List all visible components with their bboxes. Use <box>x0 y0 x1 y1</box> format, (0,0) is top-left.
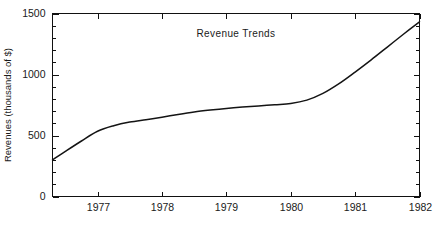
y-tick-label: 1000 <box>22 68 46 80</box>
y-tick-label: 0 <box>40 190 46 202</box>
y-tick-label: 1500 <box>22 7 46 19</box>
revenue-trends-chart: 050010001500 197719781979198019811982 Re… <box>0 0 434 231</box>
x-tick-label: 1981 <box>344 201 368 213</box>
x-tick-label: 1980 <box>280 201 304 213</box>
x-tick-label: 1978 <box>151 201 175 213</box>
y-tick-label: 500 <box>28 129 46 141</box>
chart-canvas: 050010001500 197719781979198019811982 Re… <box>0 0 434 231</box>
x-tick-label: 1977 <box>87 201 111 213</box>
chart-title: Revenue Trends <box>197 28 276 39</box>
x-tick-label: 1979 <box>215 201 239 213</box>
y-axis-title: Revenues (thousands of $) <box>2 48 13 162</box>
x-tick-label: 1982 <box>409 201 433 213</box>
